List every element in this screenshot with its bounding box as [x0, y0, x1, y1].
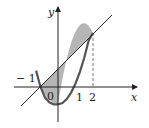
- x-axis-label: x: [131, 91, 138, 104]
- tick-label-neg-one: − 1: [16, 72, 36, 85]
- line-y-x-plus-1: [21, 15, 112, 106]
- tick-label-two: 2: [89, 91, 96, 104]
- region-diagram: y x − 1 0 1 2: [0, 0, 149, 128]
- y-axis-label: y: [47, 6, 55, 19]
- tick-label-zero: 0: [47, 90, 54, 103]
- tick-label-one: 1: [76, 91, 83, 104]
